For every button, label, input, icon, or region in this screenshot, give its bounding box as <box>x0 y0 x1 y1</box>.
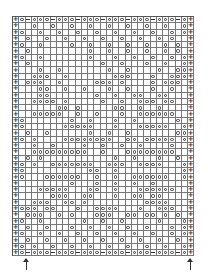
plus-symbol-icon <box>188 250 194 256</box>
arrow-up-left-icon <box>22 258 30 270</box>
arrow-up-right-icon <box>186 258 194 270</box>
knitting-chart-grid <box>12 16 194 256</box>
arrow-stem <box>190 260 191 270</box>
arrow-stem <box>26 260 27 270</box>
